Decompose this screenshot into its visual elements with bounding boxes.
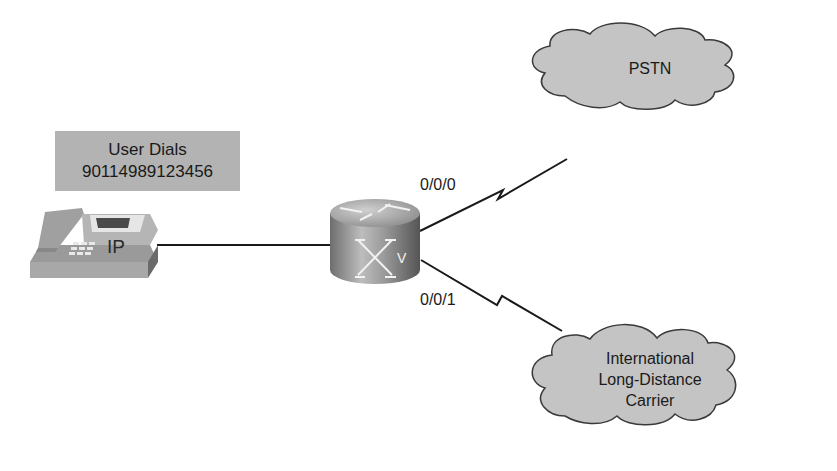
pstn-label: PSTN xyxy=(600,58,700,79)
serial-link-pstn xyxy=(420,159,567,231)
dialed-number-callout: User Dials 90114989123456 xyxy=(55,131,240,191)
network-diagram: User Dials 90114989123456 IP V 0/0/0 0/0… xyxy=(0,0,837,471)
router-voice-badge: V xyxy=(397,250,406,266)
callout-title: User Dials xyxy=(108,139,186,161)
carrier-label-line1: International xyxy=(570,348,730,369)
voice-router-icon xyxy=(330,199,420,284)
ip-phone-label: IP xyxy=(107,236,125,258)
port-label-0-0-0: 0/0/0 xyxy=(420,176,456,194)
port-label-0-0-1: 0/0/1 xyxy=(420,291,456,309)
carrier-label: International Long-Distance Carrier xyxy=(570,348,730,411)
carrier-label-line2: Long-Distance xyxy=(570,369,730,390)
ip-phone-icon xyxy=(30,208,158,278)
carrier-label-line3: Carrier xyxy=(570,390,730,411)
dialed-number: 90114989123456 xyxy=(82,161,213,183)
